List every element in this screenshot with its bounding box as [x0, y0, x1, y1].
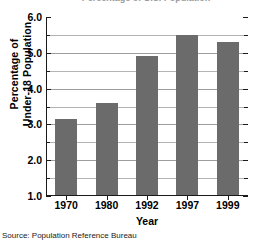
- y-axis-line: [46, 17, 47, 196]
- bar: [96, 103, 118, 196]
- x-tick-label: 1997: [176, 199, 199, 211]
- chart-title: Percentage of U.S. Population: [46, 0, 246, 3]
- axis-tick-right: [243, 160, 248, 161]
- x-tick-label: 1970: [55, 199, 78, 211]
- y-tick-label: 4.0: [16, 84, 42, 94]
- axis-tick-right: [244, 35, 248, 36]
- axis-tick-right: [244, 107, 248, 108]
- plot-frame: [46, 17, 248, 196]
- axis-tick-right: [244, 178, 248, 179]
- x-axis-tick-labels: 19701980199219971999: [46, 199, 248, 213]
- y-tick-label: 2.0: [16, 155, 42, 165]
- gridline-minor: [46, 35, 248, 36]
- axis-tick-right: [244, 142, 248, 143]
- bar: [136, 56, 158, 196]
- bar: [176, 35, 198, 196]
- axis-tick-right: [243, 124, 248, 125]
- y-tick-label: 1.0: [16, 191, 42, 201]
- axis-tick-left: [46, 196, 51, 197]
- axis-tick-right: [243, 89, 248, 90]
- y-tick-label: 5.0: [16, 48, 42, 58]
- plot-area: [46, 17, 248, 196]
- y-tick-label: 3.0: [16, 119, 42, 129]
- y-tick-label: 6.0: [16, 12, 42, 22]
- axis-tick-right: [243, 53, 248, 54]
- axis-tick-right: [244, 71, 248, 72]
- x-axis-line: [46, 195, 248, 196]
- source-note: Source: Population Reference Bureau: [2, 231, 137, 240]
- y-axis-tick-labels: 1.02.03.04.05.06.0: [14, 0, 42, 242]
- x-tick-label: 1980: [95, 199, 118, 211]
- x-tick-label: 1992: [135, 199, 158, 211]
- bar: [55, 119, 77, 196]
- x-tick-label: 1999: [216, 199, 239, 211]
- axis-tick-right: [243, 17, 248, 18]
- bar: [217, 42, 239, 196]
- bar-chart-figure: Percentage of U.S. Population Percentage…: [0, 0, 259, 242]
- axis-tick-right: [243, 196, 248, 197]
- x-axis-title: Year: [46, 215, 248, 227]
